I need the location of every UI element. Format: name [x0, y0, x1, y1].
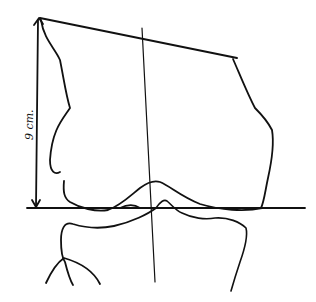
condyle-notch	[120, 200, 247, 291]
knee-diagram: 9 cm.	[0, 0, 316, 302]
femur-outline-left	[41, 20, 70, 173]
femur-outline-left-lower	[64, 181, 262, 211]
top-oblique-line	[40, 18, 237, 58]
measurement-label: 9 cm.	[23, 109, 36, 140]
fibula-outline	[46, 258, 100, 284]
femur-axis-line	[142, 28, 155, 282]
tibia-outline	[61, 208, 156, 285]
femur-outline-right	[233, 59, 273, 208]
vertical-measurement-arrow	[36, 20, 38, 207]
